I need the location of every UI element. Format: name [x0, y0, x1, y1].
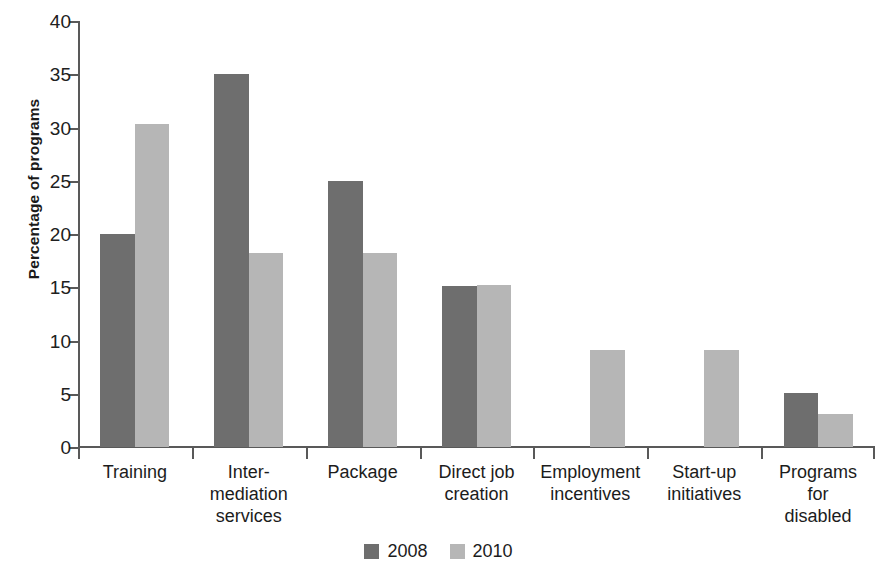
category-label: Direct jobcreation — [420, 461, 534, 505]
plot-area: 0510152025303540 — [78, 21, 875, 447]
legend-swatch-icon — [364, 544, 379, 559]
x-tick-mark — [192, 448, 194, 459]
y-tick-label: 30 — [50, 118, 71, 137]
category-label-line: Start-up — [647, 461, 761, 483]
x-tick-mark — [420, 448, 422, 459]
y-tick-label: 15 — [50, 278, 71, 297]
bar-2010-1 — [249, 253, 284, 447]
category-label: Programsfordisabled — [761, 461, 875, 527]
category-label-line: initiatives — [647, 483, 761, 505]
x-tick-mark — [78, 448, 80, 459]
bar-2008-6 — [784, 393, 819, 447]
category-label-line: incentives — [533, 483, 647, 505]
category-label: Training — [78, 461, 192, 483]
bar-2008-1 — [214, 74, 249, 447]
y-axis-title: Percentage of programs — [25, 59, 43, 319]
y-tick-label: 5 — [60, 384, 71, 403]
bar-2010-6 — [818, 414, 853, 447]
bar-2010-2 — [363, 253, 398, 447]
category-label-line: creation — [420, 483, 534, 505]
category-label-line: Direct job — [420, 461, 534, 483]
category-label: Package — [306, 461, 420, 483]
x-tick-mark — [533, 448, 535, 459]
y-tick-label: 40 — [50, 12, 71, 31]
y-tick-label: 10 — [50, 331, 71, 350]
category-label-line: Inter- — [192, 461, 306, 483]
legend-label: 2008 — [387, 542, 427, 560]
y-tick-label: 0 — [60, 438, 71, 457]
bar-2008-3 — [442, 286, 477, 447]
bar-2008-2 — [328, 181, 363, 447]
legend-item-2008[interactable]: 2008 — [364, 542, 427, 560]
x-tick-mark — [647, 448, 649, 459]
category-label: Employmentincentives — [533, 461, 647, 505]
category-label: Start-upinitiatives — [647, 461, 761, 505]
bar-2010-3 — [477, 285, 512, 447]
x-tick-mark — [761, 448, 763, 459]
bar-2010-5 — [704, 350, 739, 447]
y-tick-label: 20 — [50, 225, 71, 244]
chart-legend: 20082010 — [0, 542, 877, 560]
legend-item-2010[interactable]: 2010 — [450, 542, 513, 560]
bar-2010-4 — [590, 350, 625, 447]
category-label-line: Package — [306, 461, 420, 483]
bar-chart: Percentage of programs 0510152025303540 … — [0, 0, 877, 570]
x-tick-mark — [306, 448, 308, 459]
category-label-line: mediation — [192, 483, 306, 505]
x-tick-mark — [873, 448, 875, 459]
category-label-line: Programs — [761, 461, 875, 483]
category-label: Inter-mediationservices — [192, 461, 306, 527]
category-label-line: Training — [78, 461, 192, 483]
category-label-line: Employment — [533, 461, 647, 483]
category-label-line: for — [761, 483, 875, 505]
bar-2008-0 — [100, 234, 135, 447]
legend-swatch-icon — [450, 544, 465, 559]
legend-label: 2010 — [473, 542, 513, 560]
y-tick-label: 25 — [50, 171, 71, 190]
bar-2010-0 — [135, 124, 170, 447]
category-label-line: services — [192, 505, 306, 527]
category-label-line: disabled — [761, 505, 875, 527]
y-tick-label: 35 — [50, 65, 71, 84]
